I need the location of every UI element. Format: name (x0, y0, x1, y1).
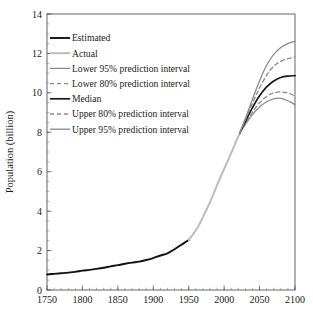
population-projection-chart: 17501800185019001950200020502100 0246810… (0, 0, 313, 319)
chart-canvas: 17501800185019001950200020502100 0246810… (0, 0, 313, 319)
legend-label: Upper 95% prediction interval (72, 124, 189, 135)
legend-label: Lower 80% prediction interval (72, 78, 190, 89)
x-tick-label: 2000 (214, 294, 234, 305)
x-tick-label: 1850 (108, 294, 128, 305)
legend-label: Lower 95% prediction interval (72, 63, 190, 74)
x-tick-label: 1900 (143, 294, 163, 305)
series-line (240, 57, 295, 133)
legend-label: Median (72, 93, 102, 104)
y-tick-label: 14 (32, 9, 42, 20)
y-tick-label: 0 (37, 285, 42, 296)
y-axis-tick-labels: 02468101214 (32, 9, 42, 296)
x-tick-label: 1750 (37, 294, 57, 305)
legend-label: Estimated (72, 32, 111, 43)
legend-label: Upper 80% prediction interval (72, 108, 189, 119)
x-tick-label: 2100 (285, 294, 305, 305)
y-tick-label: 4 (37, 206, 42, 217)
y-tick-label: 12 (32, 48, 42, 59)
series-line (47, 240, 189, 275)
y-tick-label: 10 (32, 87, 42, 98)
series-line (240, 76, 295, 134)
series-lines (47, 41, 295, 274)
series-line (189, 133, 240, 240)
x-tick-label: 1950 (179, 294, 199, 305)
x-axis-tick-labels: 17501800185019001950200020502100 (37, 294, 305, 305)
y-axis-title: Population (billion) (4, 110, 16, 193)
y-tick-label: 6 (37, 166, 42, 177)
chart-legend: EstimatedActualLower 95% prediction inte… (50, 32, 190, 134)
legend-label: Actual (72, 48, 98, 59)
y-tick-label: 8 (37, 127, 42, 138)
x-tick-label: 2050 (250, 294, 270, 305)
y-tick-label: 2 (37, 245, 42, 256)
x-tick-label: 1800 (72, 294, 92, 305)
